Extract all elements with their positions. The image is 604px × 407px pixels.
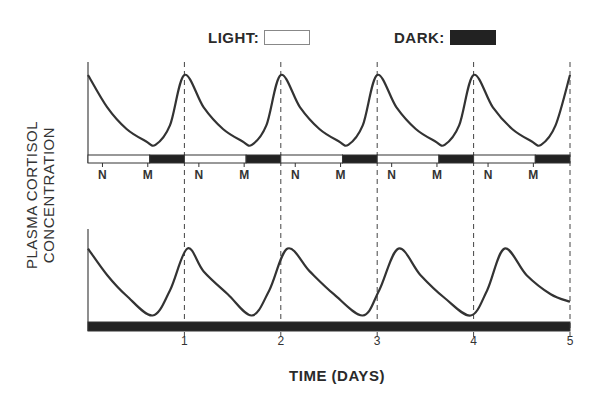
- light-period-bar: [88, 155, 150, 163]
- noon-label: N: [98, 168, 107, 182]
- dark-period-bar: [150, 155, 185, 163]
- midnight-label: M: [336, 168, 346, 182]
- light-period-bar: [377, 155, 439, 163]
- day-tick-label: 2: [277, 334, 284, 348]
- cortisol-chart: NMNMNMNMNM12345: [0, 0, 604, 407]
- day-tick-label: 5: [567, 334, 574, 348]
- dark-period-bar: [439, 155, 474, 163]
- noon-label: N: [387, 168, 396, 182]
- dark-period-bar: [342, 155, 377, 163]
- midnight-label: M: [432, 168, 442, 182]
- noon-label: N: [484, 168, 493, 182]
- midnight-label: M: [143, 168, 153, 182]
- day-tick-label: 3: [374, 334, 381, 348]
- x-axis-label: TIME (DAYS): [0, 367, 604, 384]
- midnight-label: M: [528, 168, 538, 182]
- midnight-label: M: [239, 168, 249, 182]
- dark-period-bar: [535, 155, 570, 163]
- cortisol-curve: [88, 75, 570, 146]
- day-tick-label: 1: [181, 334, 188, 348]
- noon-label: N: [195, 168, 204, 182]
- dark-period-bar: [246, 155, 281, 163]
- light-period-bar: [281, 155, 343, 163]
- dark-period-bar: [88, 322, 570, 331]
- noon-label: N: [291, 168, 300, 182]
- light-period-bar: [474, 155, 536, 163]
- light-period-bar: [184, 155, 246, 163]
- cortisol-curve: [88, 248, 570, 315]
- day-tick-label: 4: [470, 334, 477, 348]
